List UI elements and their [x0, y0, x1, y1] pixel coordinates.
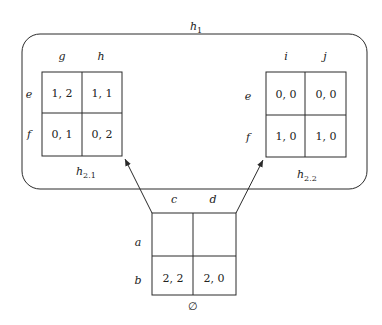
payoff-cell: 1, 0 — [276, 130, 297, 143]
matrix-h2-1: g h e f 1, 2 1, 1 0, 1 0, 2 h2.1 — [26, 50, 122, 180]
row-label-b: b — [134, 274, 141, 287]
matrix-root: c d a b 2, 2 2, 0 ∅ — [134, 193, 236, 313]
matrix-h2-1-label: h2.1 — [76, 165, 96, 180]
outer-group-h1: h1 — [22, 20, 367, 189]
payoff-cell: 1, 2 — [52, 87, 73, 100]
payoff-cell: 0, 2 — [92, 128, 113, 141]
matrix-root-label: ∅ — [188, 300, 198, 313]
payoff-cell: 0, 0 — [276, 88, 297, 101]
column-label-g: g — [58, 50, 65, 63]
game-tree-diagram: h1 g h e f 1, 2 1, 1 0, 1 0, 2 h2.1 i j … — [0, 0, 382, 325]
payoff-cell: 0, 0 — [316, 88, 337, 101]
column-label-j: j — [320, 50, 327, 63]
payoff-cell: 1, 0 — [316, 130, 337, 143]
outer-group-label: h1 — [190, 20, 202, 35]
column-label-h: h — [97, 50, 104, 63]
column-label-d: d — [209, 193, 216, 206]
outer-group-border — [22, 34, 367, 189]
column-label-c: c — [171, 193, 177, 206]
edge-arrow-to-h2-1 — [125, 159, 152, 213]
payoff-cell: 2, 0 — [204, 272, 225, 285]
matrix-h2-2-label: h2.2 — [297, 168, 317, 183]
column-label-i: i — [284, 50, 288, 63]
row-label-e: e — [26, 88, 33, 101]
edge-arrow-to-h2-2 — [236, 160, 263, 213]
row-label-e: e — [245, 90, 252, 103]
row-label-a: a — [135, 236, 142, 249]
matrix-h2-2: i j e f 0, 0 0, 0 1, 0 1, 0 h2.2 — [245, 50, 346, 183]
payoff-cell: 2, 2 — [163, 272, 184, 285]
payoff-cell: 1, 1 — [92, 87, 113, 100]
payoff-cell: 0, 1 — [52, 128, 73, 141]
row-label-f: f — [245, 131, 252, 144]
row-label-f: f — [26, 128, 33, 141]
